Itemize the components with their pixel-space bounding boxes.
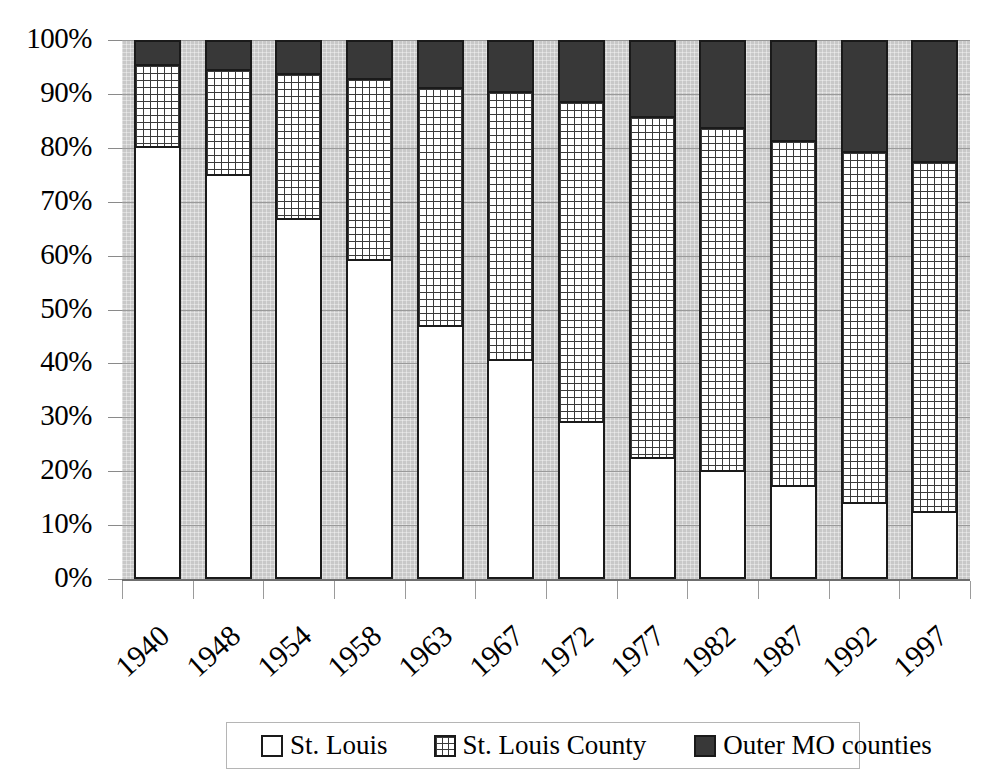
bar-1954[interactable] bbox=[275, 40, 322, 579]
y-axis-tick-label: 50% bbox=[0, 294, 92, 323]
x-axis-tick bbox=[829, 581, 830, 599]
x-axis-tick bbox=[334, 581, 335, 599]
segment-st-louis-county[interactable] bbox=[134, 64, 181, 146]
x-axis-tick bbox=[546, 581, 547, 599]
x-axis-tick-label: 1977 bbox=[605, 620, 670, 682]
y-axis-tick bbox=[108, 256, 122, 257]
y-axis-tick bbox=[108, 202, 122, 203]
y-axis-tick-label: 10% bbox=[0, 509, 92, 538]
segment-st-louis[interactable] bbox=[275, 218, 322, 579]
y-axis-tick bbox=[108, 471, 122, 472]
bar-1997[interactable] bbox=[911, 40, 958, 579]
grid-hatch-square-icon bbox=[434, 735, 456, 757]
x-axis-tick bbox=[122, 581, 123, 599]
x-axis-tick-label: 1982 bbox=[676, 620, 741, 682]
y-axis-tick bbox=[108, 94, 122, 95]
white-square-icon bbox=[261, 735, 283, 757]
segment-st-louis[interactable] bbox=[487, 359, 534, 579]
bar-1948[interactable] bbox=[205, 40, 252, 579]
y-axis-tick bbox=[108, 40, 122, 41]
segment-outer-mo-counties[interactable] bbox=[699, 40, 746, 127]
x-axis-tick-label: 1940 bbox=[110, 620, 175, 682]
segment-outer-mo-counties[interactable] bbox=[558, 40, 605, 101]
segment-st-louis-county[interactable] bbox=[911, 161, 958, 511]
segment-outer-mo-counties[interactable] bbox=[417, 40, 464, 87]
bar-1992[interactable] bbox=[841, 40, 888, 579]
x-axis-tick bbox=[405, 581, 406, 599]
segment-st-louis-county[interactable] bbox=[275, 73, 322, 217]
x-axis-tick-label: 1963 bbox=[393, 620, 458, 682]
x-axis-tick-label: 1992 bbox=[817, 620, 882, 682]
legend-label: St. Louis County bbox=[463, 732, 647, 759]
bar-1977[interactable] bbox=[629, 40, 676, 579]
segment-st-louis-county[interactable] bbox=[558, 101, 605, 420]
bar-1940[interactable] bbox=[134, 40, 181, 579]
legend-item-st-louis-county[interactable]: St. Louis County bbox=[434, 732, 647, 759]
legend-item-outer-mo-counties[interactable]: Outer MO counties bbox=[694, 732, 931, 759]
bar-1958[interactable] bbox=[346, 40, 393, 579]
segment-st-louis[interactable] bbox=[134, 146, 181, 579]
segment-st-louis[interactable] bbox=[841, 502, 888, 579]
segment-st-louis[interactable] bbox=[629, 457, 676, 579]
x-axis-tick bbox=[758, 581, 759, 599]
segment-outer-mo-counties[interactable] bbox=[346, 40, 393, 78]
segment-st-louis-county[interactable] bbox=[417, 87, 464, 325]
y-axis-tick bbox=[108, 148, 122, 149]
segment-st-louis[interactable] bbox=[911, 511, 958, 579]
y-axis-tick-label: 90% bbox=[0, 78, 92, 107]
bar-1987[interactable] bbox=[770, 40, 817, 579]
segment-st-louis-county[interactable] bbox=[629, 116, 676, 457]
segment-outer-mo-counties[interactable] bbox=[487, 40, 534, 91]
plot-area bbox=[122, 40, 970, 579]
y-axis-tick-label: 70% bbox=[0, 186, 92, 215]
x-axis-tick-label: 1967 bbox=[464, 620, 529, 682]
segment-st-louis-county[interactable] bbox=[487, 91, 534, 358]
x-axis-tick bbox=[263, 581, 264, 599]
x-axis-tick-label: 1948 bbox=[181, 620, 246, 682]
legend-item-st-louis[interactable]: St. Louis bbox=[261, 732, 388, 759]
x-axis-tick-label: 1987 bbox=[746, 620, 811, 682]
y-axis-tick-label: 30% bbox=[0, 401, 92, 430]
segment-st-louis[interactable] bbox=[417, 325, 464, 579]
segment-outer-mo-counties[interactable] bbox=[911, 40, 958, 161]
bar-1967[interactable] bbox=[487, 40, 534, 579]
x-axis-tick-label: 1954 bbox=[252, 620, 317, 682]
segment-outer-mo-counties[interactable] bbox=[134, 40, 181, 64]
y-axis-tick bbox=[108, 417, 122, 418]
stacked-bar-chart: 0%10%20%30%40%50%60%70%80%90%100% 194019… bbox=[0, 0, 998, 784]
x-axis-tick bbox=[475, 581, 476, 599]
x-axis-tick bbox=[193, 581, 194, 599]
y-axis-tick-label: 20% bbox=[0, 455, 92, 484]
y-axis-tick-label: 0% bbox=[0, 563, 92, 592]
legend-label: St. Louis bbox=[290, 732, 388, 759]
bar-1972[interactable] bbox=[558, 40, 605, 579]
y-axis-tick-label: 100% bbox=[0, 24, 92, 53]
segment-outer-mo-counties[interactable] bbox=[275, 40, 322, 73]
x-axis-tick bbox=[687, 581, 688, 599]
segment-outer-mo-counties[interactable] bbox=[770, 40, 817, 140]
segment-st-louis-county[interactable] bbox=[205, 69, 252, 174]
y-axis-tick-label: 80% bbox=[0, 132, 92, 161]
bars-layer bbox=[122, 40, 970, 579]
segment-st-louis[interactable] bbox=[558, 421, 605, 579]
segment-st-louis[interactable] bbox=[205, 174, 252, 579]
segment-st-louis[interactable] bbox=[346, 259, 393, 579]
y-axis-tick bbox=[108, 310, 122, 311]
segment-st-louis[interactable] bbox=[770, 485, 817, 579]
segment-outer-mo-counties[interactable] bbox=[841, 40, 888, 150]
segment-outer-mo-counties[interactable] bbox=[205, 40, 252, 69]
chart-legend: St. Louis St. Louis County Outer MO coun… bbox=[226, 722, 860, 769]
segment-st-louis-county[interactable] bbox=[770, 140, 817, 484]
segment-st-louis-county[interactable] bbox=[841, 151, 888, 502]
bar-1963[interactable] bbox=[417, 40, 464, 579]
segment-outer-mo-counties[interactable] bbox=[629, 40, 676, 116]
segment-st-louis-county[interactable] bbox=[346, 78, 393, 259]
segment-st-louis-county[interactable] bbox=[699, 127, 746, 470]
legend-label: Outer MO counties bbox=[723, 732, 931, 759]
bar-1982[interactable] bbox=[699, 40, 746, 579]
segment-st-louis[interactable] bbox=[699, 470, 746, 579]
dark-square-icon bbox=[694, 735, 716, 757]
y-axis-tick bbox=[108, 579, 122, 580]
x-axis-tick bbox=[970, 581, 971, 599]
y-axis-tick-label: 40% bbox=[0, 347, 92, 376]
